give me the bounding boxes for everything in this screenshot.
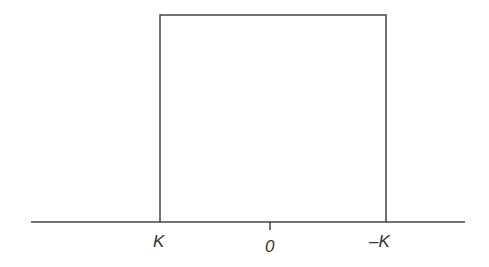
label-right-neg-k: –K [368,232,390,251]
pulse-diagram: K 0 –K [0,0,489,267]
label-zero: 0 [265,237,275,256]
label-left-k: K [153,232,165,251]
rectangular-pulse [160,15,386,222]
